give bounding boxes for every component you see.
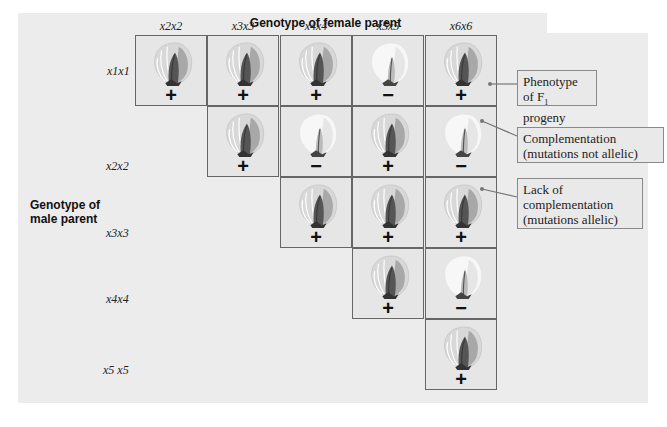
- callout-complementation-line1: Complementation: [523, 131, 658, 146]
- text: of F: [523, 89, 544, 104]
- callout-complementation-line2: (mutations not allelic): [523, 146, 658, 161]
- callout-lack-line1: Lack of: [523, 182, 637, 197]
- subscript: 1: [544, 98, 548, 107]
- text: progeny: [523, 110, 566, 125]
- callout-lack-of-complementation: Lack of complementation (mutations allel…: [517, 178, 643, 229]
- callout-phenotype-line1: Phenotype: [523, 74, 591, 89]
- callout-phenotype-line2: of F1 progeny: [523, 89, 591, 125]
- callout-complementation: Complementation (mutations not allelic): [517, 127, 664, 163]
- callout-lack-line2: complementation: [523, 197, 637, 212]
- callout-lack-line3: (mutations allelic): [523, 212, 637, 227]
- callout-phenotype: Phenotype of F1 progeny: [517, 70, 597, 106]
